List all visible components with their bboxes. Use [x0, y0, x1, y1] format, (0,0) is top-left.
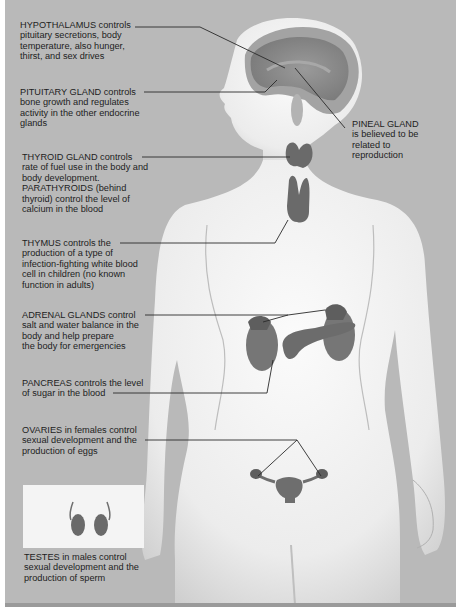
label-line: related to: [352, 140, 419, 150]
label-line: OVARIES in females control: [22, 425, 137, 435]
diagram-panel: HYPOTHALAMUS controls pituitary secretio…: [5, 0, 456, 605]
label-thyroid: THYROID GLAND controls rate of fuel use …: [22, 152, 148, 214]
label-line: reproduction: [352, 150, 419, 160]
label-thymus: THYMUS controls the production of a type…: [22, 238, 138, 290]
label-line: THYMUS controls the: [22, 238, 138, 248]
label-line: PITUITARY GLAND controls: [20, 87, 140, 97]
label-line: bone growth and regulates: [20, 97, 140, 107]
label-line: function in adults): [22, 280, 138, 290]
label-line: PINEAL GLAND: [352, 119, 419, 129]
label-line: of sugar in the blood: [22, 388, 143, 398]
label-line: body and help prepare: [22, 331, 139, 341]
label-line: HYPOTHALAMUS controls: [20, 20, 131, 30]
label-line: PARATHYROIDS (behind: [22, 183, 148, 193]
label-line: the body for emergencies: [22, 341, 139, 351]
label-pancreas: PANCREAS controls the level of sugar in …: [22, 378, 143, 399]
label-line: calcium in the blood: [22, 204, 148, 214]
label-line: salt and water balance in the: [22, 320, 139, 330]
label-line: production of eggs: [22, 446, 137, 456]
label-testes: TESTES in males control sexual developme…: [24, 552, 139, 583]
label-line: is believed to be: [352, 129, 419, 139]
label-line: body development.: [22, 173, 148, 183]
label-line: rate of fuel use in the body and: [22, 162, 148, 172]
label-line: ADRENAL GLANDS control: [22, 310, 139, 320]
label-ovaries: OVARIES in females control sexual develo…: [22, 425, 137, 456]
label-line: infection-fighting white blood: [22, 259, 138, 269]
label-line: thyroid) control the level of: [22, 194, 148, 204]
label-pituitary: PITUITARY GLAND controls bone growth and…: [20, 87, 140, 129]
label-line: temperature, also hunger,: [20, 41, 131, 51]
label-line: sexual development and the: [22, 435, 137, 445]
label-line: activity in the other endocrine: [20, 108, 140, 118]
label-line: pituitary secretions, body: [20, 30, 131, 40]
label-line: THYROID GLAND controls: [22, 152, 148, 162]
label-pineal: PINEAL GLAND is believed to be related t…: [352, 119, 419, 161]
label-line: production of a type of: [22, 248, 138, 258]
label-line: production of sperm: [24, 573, 139, 583]
label-line: cell in children (no known: [22, 269, 138, 279]
label-line: glands: [20, 118, 140, 128]
testes-illustration: [23, 485, 144, 548]
label-line: sexual development and the: [24, 562, 139, 572]
label-adrenal: ADRENAL GLANDS control salt and water ba…: [22, 310, 139, 352]
label-hypothalamus: HYPOTHALAMUS controls pituitary secretio…: [20, 20, 131, 62]
label-line: thirst, and sex drives: [20, 51, 131, 61]
panel-bottom-edge: [5, 603, 456, 607]
label-line: TESTES in males control: [24, 552, 139, 562]
label-line: PANCREAS controls the level: [22, 378, 143, 388]
